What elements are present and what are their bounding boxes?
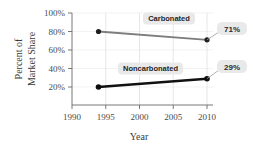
- series-carbonated: [96, 29, 210, 43]
- xtick-label-2000: 2000: [131, 112, 150, 122]
- series-noncarbonated-line: [99, 79, 208, 87]
- ytick-label-100: 100%: [44, 8, 66, 18]
- callout-noncarbonated-29: 29%: [207, 60, 247, 79]
- series-label-carbonated: Carbonated: [143, 13, 195, 25]
- series-carbonated-line: [99, 32, 208, 40]
- ytick-label-20: 20%: [49, 82, 66, 92]
- xtick-label-2005: 2005: [164, 112, 183, 122]
- y-tick-labels: 100% 80% 60% 40% 20%: [44, 8, 66, 92]
- ytick-label-40: 40%: [49, 64, 66, 74]
- callout-carbonated-text: 71%: [224, 25, 240, 34]
- series-carbonated-point-2010: [204, 37, 209, 42]
- chart-canvas: 100% 80% 60% 40% 20% 1990 1995 2000 2005…: [0, 0, 253, 147]
- y-axis-title-line2: Market Share: [26, 31, 37, 86]
- ytick-label-80: 80%: [49, 27, 66, 37]
- xtick-label-1995: 1995: [97, 112, 116, 122]
- x-tick-labels: 1990 1995 2000 2005 2010: [63, 112, 217, 122]
- y-axis-title: Percent of Market Share: [13, 31, 37, 86]
- series-label-carbonated-text: Carbonated: [148, 14, 190, 23]
- x-tick-marks: [72, 105, 207, 109]
- callout-noncarbonated-leader: [207, 70, 219, 79]
- ytick-label-60: 60%: [49, 45, 66, 55]
- series-noncarbonated: [96, 76, 210, 90]
- y-tick-marks: [68, 13, 72, 87]
- callout-carbonated-leader: [207, 32, 219, 40]
- callout-carbonated-71: 71%: [207, 22, 247, 40]
- x-axis-title: Year: [130, 131, 149, 142]
- axis-lines: [72, 13, 213, 105]
- vertical-gridlines: [106, 13, 207, 105]
- xtick-label-2010: 2010: [198, 112, 217, 122]
- xtick-label-1990: 1990: [63, 112, 82, 122]
- callout-noncarbonated-text: 29%: [224, 63, 240, 72]
- series-noncarbonated-point-1994: [96, 84, 102, 90]
- series-carbonated-point-1994: [96, 29, 101, 34]
- series-label-noncarbonated-text: Noncarbonated: [123, 64, 178, 73]
- market-share-line-chart: 100% 80% 60% 40% 20% 1990 1995 2000 2005…: [0, 0, 253, 147]
- series-label-noncarbonated: Noncarbonated: [118, 63, 183, 75]
- y-axis-title-line1: Percent of: [13, 38, 24, 79]
